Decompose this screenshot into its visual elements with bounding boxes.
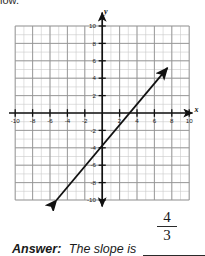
answer-blank-field[interactable] <box>143 243 205 256</box>
graph-svg: -10 -8 -6 -4 -2 2 4 6 8 10 10 8 6 4 2 -2… <box>0 6 204 211</box>
y-tick-label: 2 <box>93 92 97 99</box>
y-tick-label: 4 <box>93 74 97 81</box>
y-tick-label: -8 <box>90 179 96 186</box>
y-axis-label: y <box>103 7 108 16</box>
x-tick-label: 6 <box>153 117 157 124</box>
coordinate-graph: -10 -8 -6 -4 -2 2 4 6 8 10 10 8 6 4 2 -2… <box>0 6 204 211</box>
answer-area: 4 3 Answer: The slope is <box>0 210 204 254</box>
y-tick-label: -2 <box>90 127 96 134</box>
x-tick-label: 2 <box>118 117 122 124</box>
y-tick-label: -4 <box>90 144 96 151</box>
fraction-denominator: 3 <box>156 228 178 243</box>
x-tick-label: 10 <box>186 117 193 124</box>
answer-line: Answer: The slope is <box>12 242 205 256</box>
y-tick-label: 8 <box>93 40 97 47</box>
x-tick-label: -10 <box>11 117 21 124</box>
x-tick-label: -2 <box>82 117 88 124</box>
plotted-line <box>57 68 168 200</box>
y-tick-label: 6 <box>93 57 97 64</box>
x-tick-label: -8 <box>30 117 36 124</box>
y-tick-label: -10 <box>87 196 97 203</box>
x-tick-label: -4 <box>65 117 71 124</box>
y-tick-label: 10 <box>89 22 96 29</box>
x-tick-label: -6 <box>47 117 53 124</box>
x-tick-label: 4 <box>135 117 139 124</box>
fraction-numerator: 4 <box>156 210 178 225</box>
slope-fraction: 4 3 <box>156 210 178 243</box>
y-tick-label: -6 <box>90 161 96 168</box>
answer-prompt: The slope is <box>69 242 136 256</box>
axes <box>9 13 193 207</box>
x-axis-label: x <box>194 105 199 114</box>
answer-label: Answer: <box>12 242 61 256</box>
x-tick-label: 8 <box>170 117 174 124</box>
